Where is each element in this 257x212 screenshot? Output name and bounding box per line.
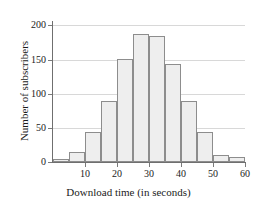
x-tick-mark (245, 163, 246, 167)
x-tick-mark (85, 163, 86, 167)
x-axis-title: Download time (in seconds) (0, 186, 257, 199)
histogram-bar (149, 36, 165, 162)
x-tick-label: 10 (73, 168, 97, 179)
y-tick-label: 0 (20, 157, 46, 167)
y-tick-mark (48, 94, 52, 95)
histogram-bar (101, 101, 117, 162)
histogram-bar (53, 159, 69, 162)
histogram-bar (197, 132, 213, 162)
plot-area (53, 22, 245, 162)
y-tick-label: 50 (20, 123, 46, 133)
y-tick-label: 150 (20, 55, 46, 65)
y-tick-mark (48, 128, 52, 129)
gridline (53, 25, 245, 26)
histogram-bar (85, 132, 101, 162)
histogram-figure: Number of subscribers 050100150200 10203… (0, 0, 257, 212)
histogram-bar (117, 59, 133, 162)
y-tick-label: 100 (20, 89, 46, 99)
x-tick-mark (213, 163, 214, 167)
histogram-bar (229, 157, 245, 162)
y-tick-mark (48, 60, 52, 61)
y-tick-mark (48, 162, 52, 163)
histogram-bar (69, 152, 85, 162)
y-tick-mark (48, 25, 52, 26)
x-tick-label: 60 (233, 168, 257, 179)
x-tick-label: 40 (169, 168, 193, 179)
y-tick-label: 200 (20, 20, 46, 30)
x-tick-mark (117, 163, 118, 167)
histogram-bar (165, 64, 181, 162)
x-tick-label: 20 (105, 168, 129, 179)
x-tick-label: 30 (137, 168, 161, 179)
y-axis-tick-labels: 050100150200 (18, 0, 46, 212)
x-tick-mark (181, 163, 182, 167)
x-tick-mark (149, 163, 150, 167)
histogram-bar (181, 101, 197, 162)
histogram-bar (133, 34, 149, 162)
histogram-bar (213, 155, 229, 162)
x-tick-label: 50 (201, 168, 225, 179)
